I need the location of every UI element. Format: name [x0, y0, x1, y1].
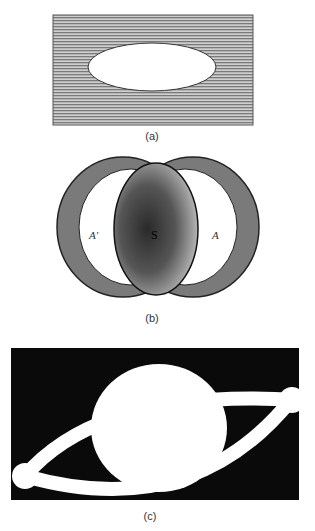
panel-b-figure: A' S A: [55, 155, 261, 305]
label-s: S: [151, 228, 158, 242]
panel-a-figure: [52, 14, 254, 126]
label-a: A: [211, 229, 219, 241]
panel-a: [52, 14, 254, 126]
panel-b: A' S A: [55, 155, 261, 305]
panel-c: [11, 348, 299, 500]
caption-c: (c): [130, 510, 170, 522]
label-a-prime: A': [88, 229, 99, 241]
caption-b: (b): [132, 312, 172, 324]
caption-a: (a): [132, 130, 172, 142]
panel-c-figure: [11, 348, 299, 500]
